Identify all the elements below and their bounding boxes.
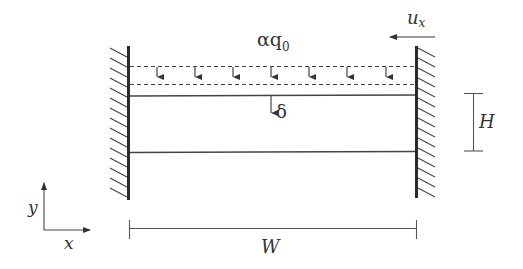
coordinate-axes bbox=[44, 183, 90, 230]
load-label: αq0 bbox=[257, 28, 290, 54]
y-axis-label: y bbox=[27, 197, 38, 217]
velocity-label: ux bbox=[407, 7, 426, 30]
bottom-plate bbox=[130, 152, 415, 153]
deflection-label: δ bbox=[276, 101, 287, 122]
height-label: H bbox=[478, 111, 495, 132]
width-label: W bbox=[261, 236, 281, 257]
distributed-load bbox=[130, 67, 415, 85]
right-wall bbox=[417, 46, 436, 198]
load-arrows bbox=[157, 67, 386, 77]
x-axis-label: x bbox=[64, 233, 74, 253]
channel-diagram: αq0 δ ux H W y x bbox=[0, 0, 523, 269]
left-wall bbox=[110, 46, 129, 200]
top-plate bbox=[130, 95, 415, 96]
